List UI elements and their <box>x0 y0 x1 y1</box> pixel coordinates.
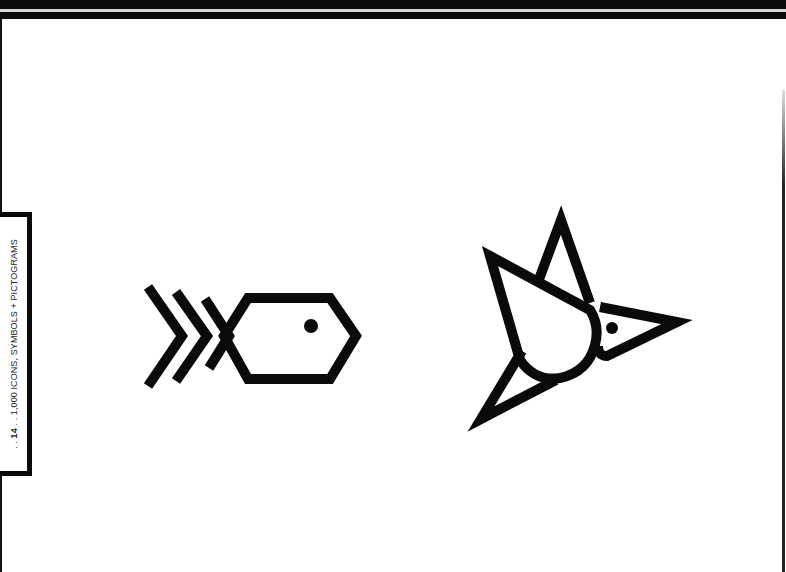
page-number: 14 <box>9 428 19 438</box>
page-side-tab: . . 14 . . 1,000 ICONS, SYMBOLS + PICTOG… <box>0 212 32 476</box>
bird-eye <box>606 322 618 334</box>
fish-icon <box>140 280 370 395</box>
side-tab-label: . . 14 . . 1,000 ICONS, SYMBOLS + PICTOG… <box>9 239 19 449</box>
top-rule-thin <box>0 12 786 19</box>
bird-icon <box>460 200 700 440</box>
book-title: 1,000 ICONS, SYMBOLS + PICTOGRAMS <box>9 239 19 415</box>
top-rule-thick <box>0 0 786 9</box>
side-tab-prefix: . . <box>9 438 19 448</box>
side-tab-separator: . . <box>9 415 19 428</box>
page-right-edge <box>782 90 785 572</box>
fish-eye <box>304 319 318 333</box>
